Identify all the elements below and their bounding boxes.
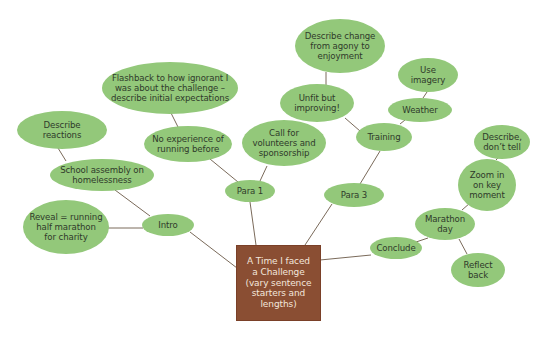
- node-reflect-back: Reflect back: [451, 253, 505, 287]
- link-central-to-para-1: [250, 202, 256, 245]
- node-flashback: Flashback to how ignorant I was about th…: [102, 62, 238, 114]
- link-para-1-to-call-for-volunteers: [260, 166, 267, 181]
- node-intro: Intro: [142, 214, 194, 236]
- node-weather: Weather: [388, 98, 452, 122]
- node-school-assembly: School assembly on homelessness: [50, 159, 154, 191]
- node-para-3: Para 3: [324, 183, 384, 207]
- link-central-to-conclude: [320, 255, 371, 260]
- node-describe-change: Describe change from agony to enjoyment: [295, 19, 385, 73]
- node-call-for-volunteers: Call for volunteers and sponsorship: [242, 120, 326, 166]
- node-use-imagery: Use imagery: [398, 58, 458, 92]
- node-describe-dont-tell: Describe, don’t tell: [474, 125, 530, 159]
- link-central-to-para-3: [305, 204, 332, 245]
- link-para-1-to-no-experience: [210, 159, 238, 182]
- link-central-to-intro: [190, 232, 237, 268]
- node-describe-reactions: Describe reactions: [17, 111, 107, 149]
- link-intro-to-school-assembly: [115, 190, 150, 216]
- node-no-experience: No experience of running before: [144, 126, 232, 162]
- link-para-3-to-training: [360, 151, 380, 184]
- link-marathon-day-to-reflect-back: [459, 239, 467, 254]
- node-unfit-improving: Unfit but improving!: [280, 84, 354, 122]
- node-zoom-in: Zoom in on key moment: [458, 159, 516, 211]
- central-topic-box: A Time I faced a Challenge (vary sentenc…: [236, 245, 321, 321]
- link-training-to-unfit-improving: [345, 118, 360, 131]
- node-conclude: Conclude: [370, 237, 422, 259]
- link-school-assembly-to-describe-reactions: [58, 148, 66, 161]
- mind-map-canvas: A Time I faced a Challenge (vary sentenc…: [0, 0, 548, 340]
- node-training: Training: [356, 123, 412, 151]
- node-marathon-day: Marathon day: [415, 208, 475, 240]
- node-reveal: Reveal = running half marathon for chari…: [23, 200, 109, 254]
- link-no-experience-to-flashback: [171, 113, 178, 127]
- node-para-1: Para 1: [225, 180, 275, 202]
